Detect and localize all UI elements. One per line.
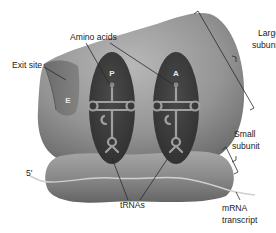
label-5-prime: 5': [26, 168, 33, 178]
label-small-subunit-line1: Small: [234, 129, 256, 139]
site-letter-e: E: [65, 96, 71, 105]
small-subunit: [45, 151, 234, 202]
label-mrna-line2: transcript: [222, 215, 258, 225]
label-amino-acids: Amino acids: [70, 32, 117, 42]
label-large-subunit-line1: Large: [258, 28, 276, 38]
site-letter-p: P: [109, 69, 115, 78]
label-exit-site: Exit site: [12, 60, 42, 70]
label-mrna-line1: mRNA: [222, 203, 248, 213]
ribosome-diagram: E P A: [0, 0, 276, 233]
label-small-subunit-line2: subunit: [232, 141, 260, 151]
label-trnas: tRNAs: [120, 200, 145, 210]
large-subunit: E: [38, 13, 244, 162]
label-large-subunit-line2: subunit: [252, 40, 276, 50]
site-letter-a: A: [173, 69, 179, 78]
